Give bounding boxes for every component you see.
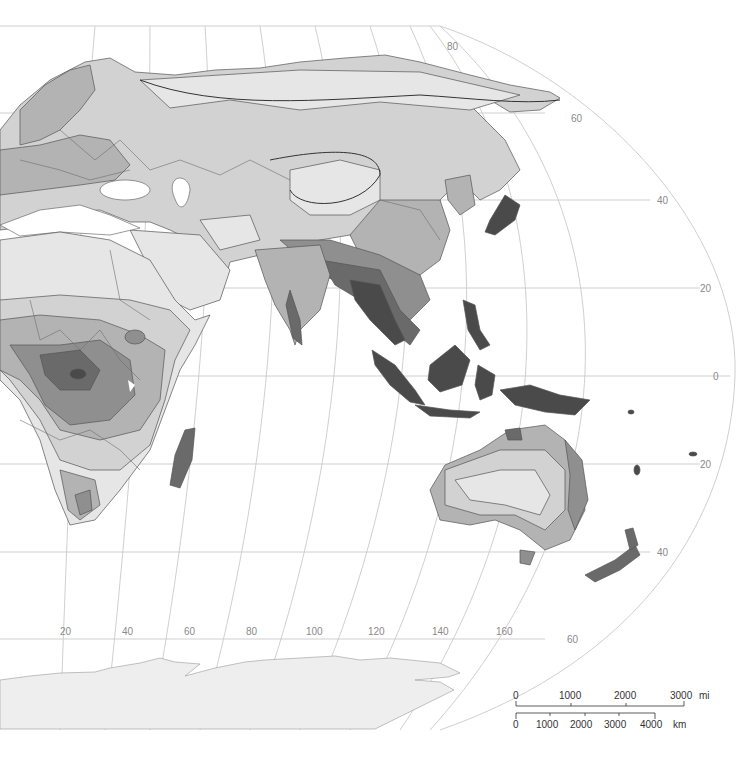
lat-label-0: 0 <box>713 371 719 382</box>
longitude-labels: 20 40 60 80 100 120 140 160 <box>60 626 513 637</box>
scale-km-2000: 2000 <box>570 719 592 730</box>
scale-mi-1000: 1000 <box>559 690 581 701</box>
lon-label-60: 60 <box>184 626 196 637</box>
scale-km-4000: 4000 <box>640 719 662 730</box>
scale-km-3000: 3000 <box>604 719 626 730</box>
lat-label-20n: 20 <box>700 283 712 294</box>
lat-label-60n: 60 <box>571 113 583 124</box>
scale-km-unit: km <box>673 719 686 730</box>
lat-label-80: 80 <box>447 41 459 52</box>
scale-mi-unit: mi <box>699 690 710 701</box>
antarctica <box>0 656 460 729</box>
lat-label-40s: 40 <box>657 547 669 558</box>
lat-label-60s: 60 <box>567 634 579 645</box>
lon-label-80: 80 <box>246 626 258 637</box>
scale-mi-3000: 3000 <box>670 690 692 701</box>
scale-mi-0: 0 <box>513 690 519 701</box>
lon-label-20: 20 <box>60 626 72 637</box>
lon-label-40: 40 <box>122 626 134 637</box>
lon-label-100: 100 <box>306 626 323 637</box>
scale-mi-2000: 2000 <box>614 690 636 701</box>
scale-bar: 0 1000 2000 3000 mi 0 1000 2000 3000 400… <box>512 690 732 730</box>
new-zealand <box>585 410 697 582</box>
lon-label-160: 160 <box>496 626 513 637</box>
map-canvas: 80 60 40 20 0 20 40 60 20 40 60 80 100 1… <box>0 0 754 761</box>
scale-km-0: 0 <box>513 719 519 730</box>
lon-label-140: 140 <box>432 626 449 637</box>
lon-label-120: 120 <box>368 626 385 637</box>
lat-label-20s: 20 <box>700 459 712 470</box>
lat-label-40n: 40 <box>657 195 669 206</box>
scale-km-1000: 1000 <box>536 719 558 730</box>
australia <box>430 425 588 565</box>
